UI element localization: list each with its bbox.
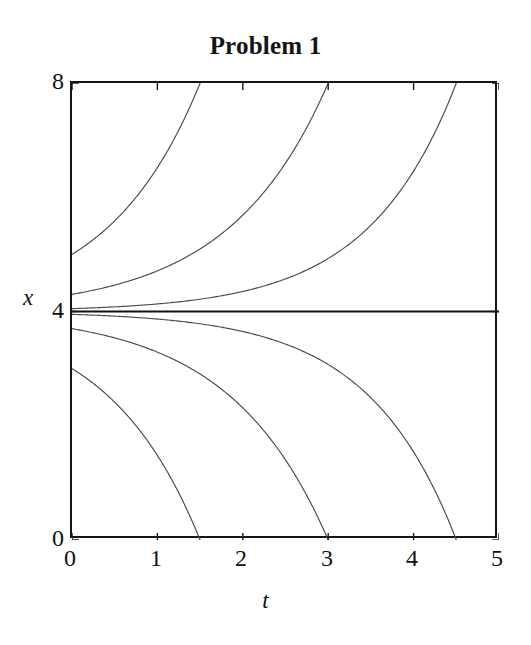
solution-curve <box>72 314 456 540</box>
xtick-label-4: 4 <box>392 546 432 570</box>
ytick-label-8: 8 <box>30 69 64 93</box>
xtick-label-3: 3 <box>307 546 347 570</box>
page-title: Problem 1 <box>0 32 531 60</box>
plot-area <box>70 81 497 538</box>
xtick-label-5: 5 <box>477 546 517 570</box>
xtick-label-2: 2 <box>221 546 261 570</box>
solution-curve <box>72 83 456 309</box>
y-axis-label: x <box>23 285 33 311</box>
xtick-label-1: 1 <box>136 546 176 570</box>
solution-curve <box>72 329 328 540</box>
solution-curve <box>72 83 328 294</box>
solution-curve <box>72 83 200 254</box>
solution-curve <box>72 369 200 540</box>
solution-curves <box>72 83 499 540</box>
ytick-label-4: 4 <box>30 298 64 322</box>
x-axis-label: t <box>0 588 531 614</box>
curve-group <box>72 83 499 540</box>
figure-container: Problem 1 8 4 0 0 1 2 3 4 5 x t <box>0 0 531 645</box>
xtick-label-0: 0 <box>50 546 90 570</box>
